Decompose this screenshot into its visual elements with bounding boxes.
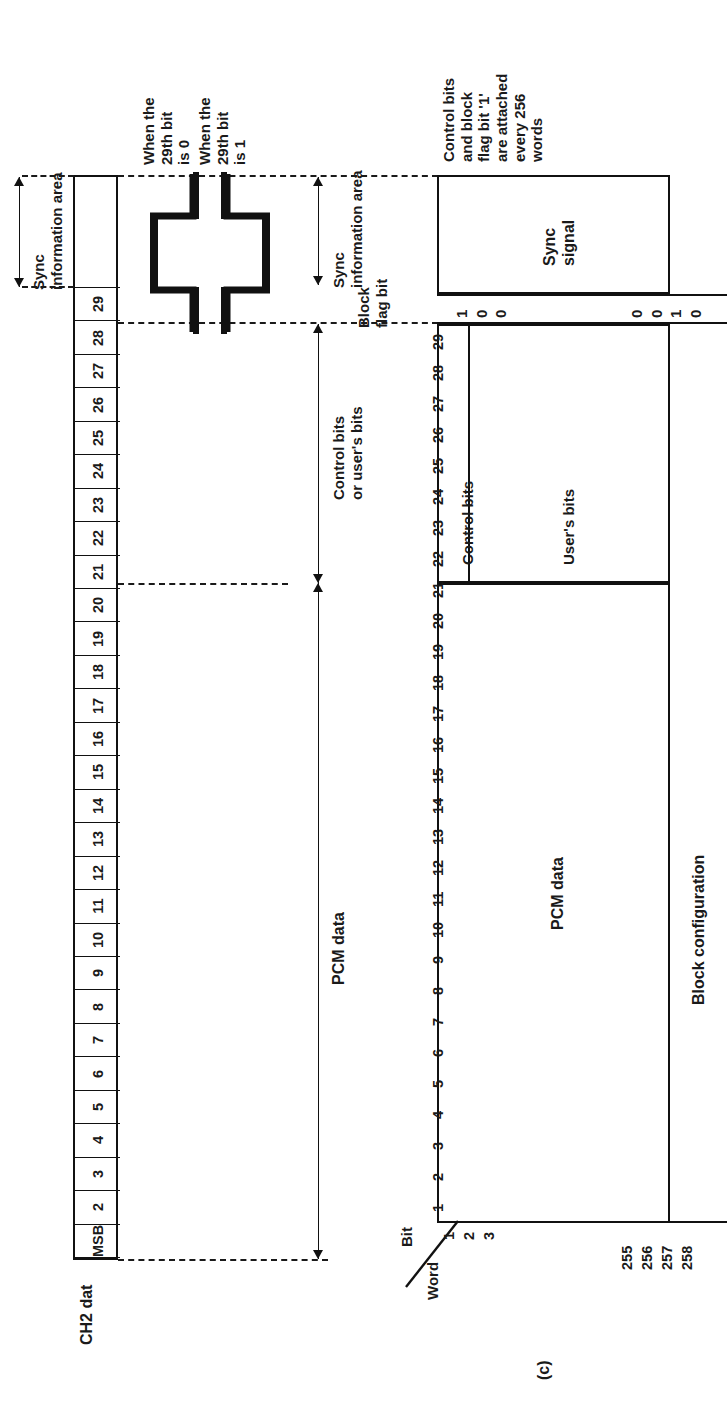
bit-cell-label: 20 [90,597,106,613]
bit-cell-label: 16 [90,731,106,747]
bit-cell: 19 [75,622,120,655]
bit-cell: 3 [75,1158,120,1191]
bit-number: 8 [430,987,446,995]
ch2-data-label: CH2 dat [78,1285,97,1345]
dashed-guide-sync-bottom [22,286,74,288]
bit-cell: 22 [75,522,120,555]
bit-cell: 29 [75,288,120,321]
bit-cell: 28 [75,321,120,354]
bit-number: 4 [430,1111,446,1119]
sync-information-area-label-middle: Sync information area [330,170,365,288]
bit-cell: 10 [75,924,120,957]
bit-number: 12 [430,860,446,876]
word-number: 258 [679,1246,695,1270]
bit-cell-label: 15 [90,764,106,780]
bit-cell: 13 [75,823,120,856]
bit-number: 19 [430,644,446,660]
bit-cell-label: 11 [90,899,106,914]
users-bits-label: User's bits [560,489,578,565]
sync-information-area-dimension-middle [313,177,325,285]
bit-cell-label: 22 [90,530,106,546]
axis-word-label: Word [424,1262,442,1300]
control-or-user-bits-dimension [313,324,325,583]
bit-number: 28 [430,365,446,381]
sync-information-area-dimension-left [14,177,26,287]
bit-cell-strip: MSB2345678910111213141516171819202122232… [73,175,118,1260]
block-flag-bit-label: Block flag bit [355,279,390,328]
flag-bit-value: 0 [628,310,645,318]
bit-number: 20 [430,613,446,629]
sync-signal-label: Sync signal [541,220,579,266]
bit-cell: 21 [75,556,120,589]
waveform-label-29th-bit-is-0: When the 29th bit is 0 [140,98,193,166]
bit-number: 1 [430,1203,446,1211]
word-number: 3 [481,1232,497,1240]
bit-cell-label: 2 [90,1203,106,1211]
bit-cell: 7 [75,1024,120,1057]
figure-caption: (c) [535,1360,554,1380]
word-number: 2 [461,1232,477,1240]
bit-cell-label: 19 [90,631,106,647]
bit-cell: 2 [75,1191,120,1224]
bit-number: 22 [430,551,446,567]
bit-cell: 27 [75,355,120,388]
control-or-user-bits-label: Control bits or user's bits [330,406,365,500]
bit-cell-label: 27 [90,363,106,379]
bit-cell: 11 [75,890,120,923]
bit-number: 18 [430,675,446,691]
bit-number: 27 [430,396,446,412]
dashed-connector-bottom [118,1259,328,1261]
bit-cell-label: 9 [90,969,106,977]
dashed-guide-sync-top [22,175,74,177]
bit-cell-label: 10 [90,932,106,948]
flag-bit-value: 0 [492,310,509,318]
bit-number: 13 [430,829,446,845]
bit-cell-label: 29 [90,296,106,312]
bit-number: 5 [430,1080,446,1088]
bit-cell: 16 [75,723,120,756]
bit-cell: 9 [75,957,120,990]
bit-number: 14 [430,798,446,814]
control-bits-note: Control bits and block flag bit '1' are … [440,74,546,162]
bit-number: 6 [430,1049,446,1057]
bit-cell-label: 3 [90,1170,106,1178]
bit-cell-label: 8 [90,1003,106,1011]
bit-cell-label: 7 [90,1036,106,1044]
bit-number: 17 [430,705,446,721]
bit-cell-label: 14 [90,798,106,814]
pcm-data-dimension [313,583,325,1259]
bit-cell: 18 [75,656,120,689]
bit-number: 3 [430,1142,446,1150]
axis-bit-label: Bit [398,1227,416,1247]
bit-number: 10 [430,922,446,938]
bit-number: 15 [430,767,446,783]
bit-cell-label: 17 [90,698,106,714]
sync-information-area-label-left: Sync information area [30,172,65,290]
bit-number: 7 [430,1018,446,1026]
bit-cell: 17 [75,689,120,722]
bit-number: 11 [430,892,446,907]
waveform-label-29th-bit-is-1: When the 29th bit is 1 [196,98,249,166]
bit-number: 29 [430,334,446,350]
bit-cell-label: 13 [90,831,106,847]
bit-cell: 24 [75,455,120,488]
bit-cell: 5 [75,1091,120,1124]
bit-number: 26 [430,427,446,443]
bit-number: 2 [430,1173,446,1181]
word-number: 255 [619,1246,635,1270]
bit-number: 9 [430,956,446,964]
word-number: 256 [639,1246,655,1270]
bit-cell-label: 28 [90,330,106,346]
bit-cell-label: 23 [90,497,106,513]
word-number: 257 [659,1246,675,1270]
flag-bit-value: 1 [667,310,684,318]
bit-cell-label: 26 [90,396,106,412]
sync-cell [75,233,120,289]
bit-cell-label: MSB [90,1225,106,1257]
bit-cell: 8 [75,990,120,1023]
control-bits-label: Control bits [459,481,477,565]
waveform-cross-outline [150,172,270,334]
flag-bit-value: 1 [453,310,470,318]
bit-number: 23 [430,520,446,536]
bit-cell-label: 21 [90,564,106,580]
